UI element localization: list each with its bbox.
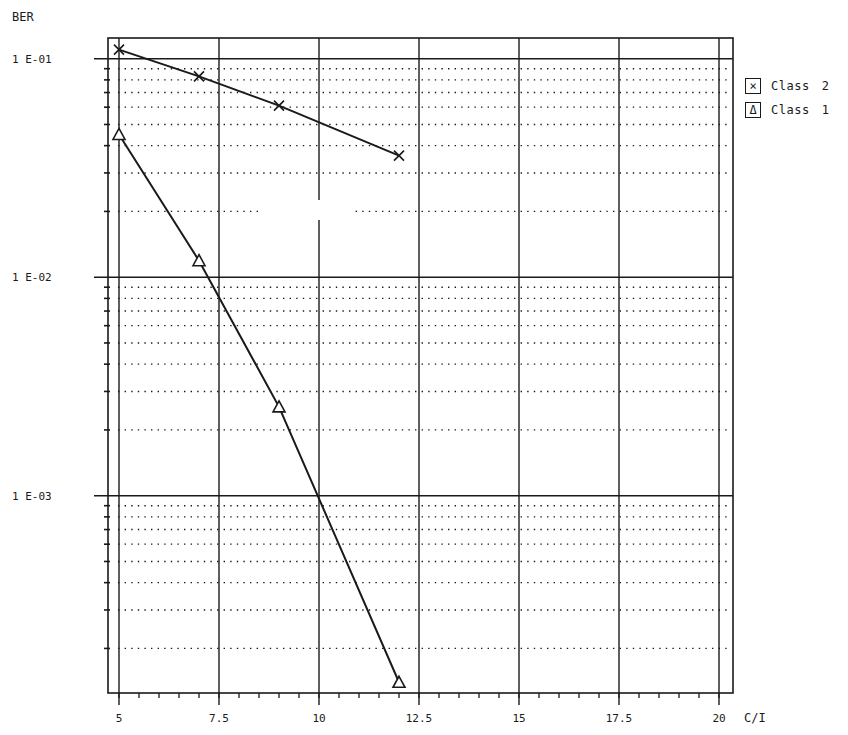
x-marker-icon: [394, 151, 404, 161]
triangle-marker-icon: [193, 255, 205, 266]
legend-class-number: 1: [822, 103, 829, 117]
plot-frame: [108, 38, 733, 693]
triangle-marker-icon: [113, 128, 125, 139]
x-tick-label: 7.5: [209, 712, 229, 725]
legend-class-number: 2: [822, 79, 829, 93]
triangle-marker-icon: [393, 676, 405, 687]
triangle-marker-icon: [273, 401, 285, 412]
legend-label: Class: [771, 103, 810, 117]
legend-item-class-1[interactable]: Δ Class 1: [745, 99, 829, 121]
series-line-class-2: [119, 50, 399, 156]
x-tick-label: 10: [312, 712, 325, 725]
x-tick-labels: 57.51012.51517.520: [116, 712, 726, 725]
x-tick-label: 20: [712, 712, 725, 725]
x-marker-icon: [274, 101, 284, 111]
x-marker-icon: ×: [745, 78, 761, 94]
series-line-class-1: [119, 134, 399, 682]
y-tick-label: 1 E-03: [12, 490, 52, 503]
triangle-marker-icon: Δ: [745, 102, 761, 118]
legend: × Class 2 Δ Class 1: [745, 75, 829, 123]
y-tick-label: 1 E-01: [12, 53, 52, 66]
x-tick-label: 17.5: [606, 712, 633, 725]
legend-item-class-2[interactable]: × Class 2: [745, 75, 829, 97]
x-marker-icon: [194, 71, 204, 81]
legend-label: Class: [771, 79, 810, 93]
major-gridlines: [94, 38, 733, 705]
x-tick-label: 15: [512, 712, 525, 725]
scan-artifact: [262, 200, 354, 220]
y-tick-labels: 1 E-011 E-021 E-03: [12, 53, 52, 503]
y-tick-label: 1 E-02: [12, 271, 52, 284]
minor-gridlines: [118, 69, 731, 649]
ber-chart: 1 E-011 E-021 E-03 57.51012.51517.520 C/…: [0, 0, 848, 735]
x-axis-title: C/I: [744, 711, 766, 725]
data-series: [113, 45, 405, 688]
x-tick-label: 5: [116, 712, 123, 725]
x-tick-label: 12.5: [406, 712, 433, 725]
axis-ticks: [104, 69, 719, 698]
